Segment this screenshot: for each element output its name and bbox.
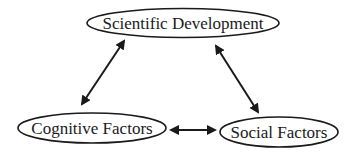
node-label-cognitive: Cognitive Factors	[31, 119, 152, 138]
diagram-canvas: Scientific Development Cognitive Factors…	[0, 0, 352, 156]
node-label-social: Social Factors	[231, 123, 328, 142]
node-cognitive-factors: Cognitive Factors	[18, 113, 166, 143]
node-scientific-development: Scientific Development	[87, 9, 279, 38]
node-social-factors: Social Factors	[220, 117, 338, 147]
node-label-scientific: Scientific Development	[103, 14, 264, 33]
bidirectional-arrow-scientific-social	[216, 46, 258, 112]
bidirectional-arrow-scientific-cognitive	[82, 41, 124, 104]
